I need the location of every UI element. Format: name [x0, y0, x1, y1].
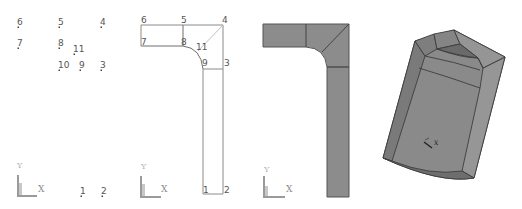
keypoint: 3	[100, 60, 106, 71]
axis-y-line	[17, 175, 19, 196]
keypoint-label: 8	[58, 38, 64, 48]
fea-geometry-figure: 6547811109312 Y X 65478119312 Y X Y	[0, 0, 522, 209]
line-keypoint-label: 6	[141, 15, 147, 25]
line-keypoint-label: 1	[203, 185, 209, 195]
axis-x-label: X	[286, 184, 293, 194]
volume-axis-x-label: X	[434, 139, 439, 146]
panel-volume: X	[383, 30, 505, 179]
axis-shade	[19, 183, 22, 196]
axis-y-label: Y	[140, 162, 147, 171]
keypoint: 5	[58, 17, 64, 28]
panel-lines	[141, 25, 223, 194]
keypoint: 7	[17, 38, 23, 49]
axis-shade	[142, 184, 145, 197]
keypoint: 10	[58, 60, 70, 71]
line-keypoint-label: 11	[196, 42, 207, 52]
axis-y-line	[140, 176, 142, 197]
keypoint: 4	[100, 17, 106, 28]
axis-triad-lines: Y X	[140, 162, 168, 198]
axis-x-line	[140, 196, 161, 198]
keypoint-label: 5	[58, 17, 64, 27]
keypoint: 2	[101, 186, 107, 197]
axis-y-line	[263, 176, 265, 197]
keypoint-label: 6	[17, 17, 23, 27]
area-l-shape	[263, 24, 349, 197]
keypoint-label: 7	[17, 38, 23, 48]
line-keypoint-label: 3	[224, 58, 230, 68]
keypoint-label: 10	[58, 60, 70, 70]
line-keypoint-label: 4	[222, 15, 228, 25]
keypoint: 11	[73, 44, 84, 55]
axis-shade	[265, 186, 268, 197]
axis-x-line	[263, 196, 285, 198]
keypoint-label: 2	[101, 186, 107, 196]
axis-x-label: X	[161, 184, 168, 194]
keypoint-label: 9	[79, 60, 85, 70]
panel-keypoints: 6547811109312	[17, 17, 107, 197]
keypoint-label: 1	[80, 186, 86, 196]
axis-x-label: X	[38, 184, 45, 194]
keypoint: 6	[17, 17, 23, 28]
line-keypoint-label: 9	[202, 58, 208, 68]
axis-y-label: Y	[16, 161, 23, 170]
line-keypoint-label: 5	[181, 15, 187, 25]
line-keypoint-label: 7	[141, 37, 147, 47]
line-keypoint-label: 2	[224, 185, 230, 195]
keypoint: 8	[58, 38, 64, 49]
keypoint-label: 11	[73, 44, 84, 54]
keypoint: 1	[80, 186, 86, 197]
keypoint: 9	[79, 60, 85, 71]
axis-y-label: Y	[263, 165, 270, 174]
keypoint-label: 4	[100, 17, 106, 27]
panel-lines-labels: 65478119312	[141, 15, 230, 195]
axis-x-line	[17, 195, 37, 197]
axis-triad-keypoints: Y X	[16, 161, 45, 197]
line-keypoint-label: 8	[181, 37, 187, 47]
keypoint-label: 3	[100, 60, 106, 70]
axis-triad-areas: Y X	[263, 165, 293, 198]
panel-areas	[263, 24, 349, 197]
